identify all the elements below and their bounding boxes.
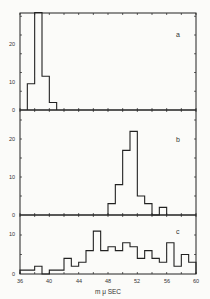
histogram-c [20, 231, 196, 274]
histogram-b [108, 131, 167, 215]
panel-frames [20, 13, 196, 274]
panel-a-label: a [176, 31, 180, 38]
histogram-bars [20, 13, 196, 275]
xtick-60: 60 [193, 278, 199, 284]
histogram-figure: a b c 0 10 20 0 10 20 0 10 36 40 44 48 5… [0, 0, 210, 299]
xtick-48: 48 [105, 278, 111, 284]
panel-a-frame [20, 13, 196, 110]
ya-20: 20 [9, 41, 15, 47]
xtick-44: 44 [76, 278, 82, 284]
yb-0: 0 [12, 212, 15, 218]
yb-10: 10 [9, 174, 15, 180]
x-axis-label: m μ SEC [95, 288, 121, 296]
ya-0: 0 [12, 107, 15, 113]
histogram-a [27, 13, 56, 111]
yb-20: 20 [9, 136, 15, 142]
xtick-36: 36 [17, 278, 23, 284]
panel-c-label: c [176, 228, 180, 235]
xtick-56: 56 [164, 278, 170, 284]
panel-b-label: b [176, 136, 180, 143]
xtick-40: 40 [46, 278, 52, 284]
yc-0: 0 [12, 271, 15, 277]
yc-10: 10 [9, 231, 15, 237]
ya-10: 10 [9, 79, 15, 85]
panel-c-frame [20, 215, 196, 274]
xtick-52: 52 [134, 278, 140, 284]
axis-ticks [20, 13, 196, 274]
panel-b-frame [20, 110, 196, 215]
